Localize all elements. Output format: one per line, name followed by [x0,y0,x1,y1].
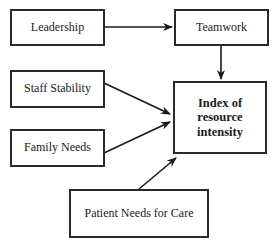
node-label-line2: resource intensity [175,110,265,139]
node-label: Family Needs [24,141,91,155]
node-leadership: Leadership [10,9,105,46]
edge-family-index [104,122,170,153]
node-label: Staff Stability [24,82,91,96]
node-index-resource-intensity: Index of resource intensity [173,81,267,154]
edge-staff-index [104,83,170,114]
node-patient-needs: Patient Needs for Care [69,189,209,238]
node-label: Leadership [31,21,84,35]
node-label: Teamwork [196,21,247,35]
node-label-line1: Index of [198,96,242,110]
node-family-needs: Family Needs [10,129,105,167]
edge-patient-index [139,158,176,189]
node-teamwork: Teamwork [174,9,269,46]
node-staff-stability: Staff Stability [10,70,105,108]
node-label: Patient Needs for Care [85,207,194,221]
